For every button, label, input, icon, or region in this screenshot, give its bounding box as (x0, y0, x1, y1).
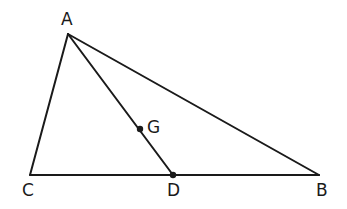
diagram-canvas: A G C D B (0, 0, 347, 209)
label-D: D (167, 180, 180, 200)
point-D-dot (170, 172, 176, 178)
segment-AB (68, 34, 319, 175)
segment-AD (68, 34, 173, 175)
label-G: G (147, 117, 160, 137)
label-A: A (61, 9, 73, 29)
label-C: C (22, 180, 34, 200)
segment-AC (30, 34, 68, 175)
triangle-diagram: A G C D B (0, 0, 347, 209)
label-B: B (316, 180, 328, 200)
point-G-dot (137, 126, 143, 132)
